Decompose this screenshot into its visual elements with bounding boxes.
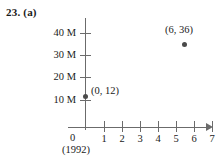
scatter-plot: 40 M 30 M 20 M 10 M 1 2 3 4 5 6 7 0 (199…	[0, 0, 219, 160]
x-tick-mark-4	[158, 121, 159, 132]
x-tick-mark-7	[212, 121, 213, 132]
y-tick-mark-10	[80, 100, 91, 101]
x-tick-mark-6	[194, 121, 195, 132]
x-tick-mark-1	[104, 121, 105, 132]
x-tick-mark-3	[140, 121, 141, 132]
data-point-label-6-36: (6, 36)	[165, 25, 193, 36]
y-tick-mark-40	[80, 33, 91, 34]
x-tick-label-4: 4	[151, 134, 165, 145]
y-tick-label-20: 20 M	[54, 72, 76, 83]
y-tick-label-40: 40 M	[54, 28, 76, 39]
figure-page: 23. (a) 40 M 30 M 20 M 10 M 1 2 3 4 5 6 …	[0, 0, 219, 160]
y-axis-line	[85, 18, 86, 130]
x-axis-line	[68, 127, 208, 128]
y-tick-label-30: 30 M	[54, 50, 76, 61]
y-tick-label-10: 10 M	[54, 95, 76, 106]
data-point-label-0-12: (0, 12)	[91, 86, 119, 97]
x-origin-year-note: (1992)	[62, 145, 90, 156]
x-tick-mark-5	[176, 121, 177, 132]
data-point-6-36	[182, 42, 187, 47]
x-tick-label-5: 5	[169, 134, 183, 145]
y-tick-mark-20	[80, 77, 91, 78]
x-tick-label-7: 7	[205, 134, 219, 145]
x-tick-label-3: 3	[133, 134, 147, 145]
x-tick-mark-2	[122, 121, 123, 132]
data-point-0-12	[83, 94, 88, 99]
x-tick-label-1: 1	[97, 134, 111, 145]
x-tick-label-6: 6	[187, 134, 201, 145]
x-tick-label-0: 0	[70, 133, 75, 144]
y-tick-mark-30	[80, 55, 91, 56]
x-tick-label-2: 2	[115, 134, 129, 145]
